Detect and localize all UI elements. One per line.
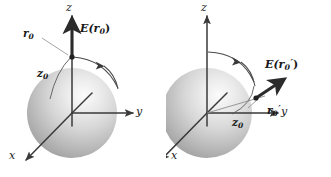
z0-subscript: 0 [43,72,48,81]
physics-figure: z y x r0 E(r0) z0 [0,0,331,177]
rotation-arc-head [232,57,241,66]
field-vector-close-paren: ) [293,58,298,71]
field-point-dot [253,95,258,100]
z0-subscript: 0 [238,121,243,130]
z0-label: z0 [232,117,243,130]
diagram-panel-left: z y x r0 E(r0) z0 [0,0,165,177]
field-point-dot [69,54,74,59]
field-vector-close-paren: ) [105,22,110,35]
z-axis-label: z [201,2,207,13]
right-panel-canvas [166,0,331,177]
position-vector-label: r0′ [267,104,281,117]
field-vector-arrow [256,80,283,98]
field-vector-label: E(r0) [80,23,110,36]
z-axis-label: z [66,2,72,13]
diagram-panel-right: z y x E(r0′) r0′ z0 [166,0,331,177]
position-vector-subscript: 0 [29,32,34,41]
position-vector-prime: ′ [278,103,281,114]
field-vector-label: E(r0′) [265,58,298,72]
z0-label: z0 [37,68,48,81]
x-axis-label: x [171,150,177,161]
y-axis-label: y [281,106,287,117]
y-axis-label: y [136,106,142,117]
position-vector-label: r0 [23,28,34,41]
r0-leader-line [42,38,68,55]
x-axis-label: x [9,150,15,161]
